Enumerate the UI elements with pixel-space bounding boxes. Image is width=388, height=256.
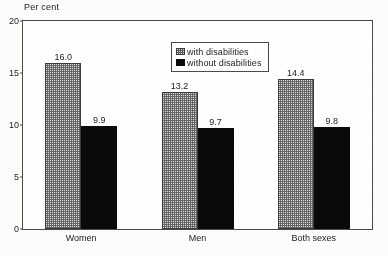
x-axis-category-label: Women [66,233,97,243]
y-axis-tick-mark [20,229,23,230]
legend-item-without-disabilities: without disabilities [176,57,262,68]
bar-value-label: 9.7 [209,117,222,127]
legend-swatch-without-disabilities [176,59,185,66]
bar: 13.2 [162,92,198,229]
bar: 9.7 [198,128,234,229]
y-axis-tick-label: 15 [9,68,19,78]
y-axis-tick-label: 0 [14,224,19,234]
bar: 16.0 [45,63,81,229]
y-axis-tick-mark [20,21,23,22]
x-axis-category-label: Men [189,233,207,243]
chart-legend: with disabilities without disabilities [171,42,269,72]
y-axis-unit-label: Per cent [24,2,59,12]
bar-chart-figure: Per cent 0510152016.09.913.29.714.49.8 w… [0,0,388,256]
legend-swatch-with-disabilities [176,48,185,55]
bar-group: 14.49.8 [278,21,350,229]
legend-label-with-disabilities: with disabilities [187,47,249,57]
bar-value-label: 14.4 [287,68,305,78]
bar-value-label: 13.2 [171,81,189,91]
bar-value-label: 9.9 [93,115,106,125]
y-axis-tick-label: 5 [14,172,19,182]
y-axis-tick-mark [20,125,23,126]
bar: 14.4 [278,79,314,229]
y-axis-tick-mark [20,177,23,178]
y-axis-tick-label: 10 [9,120,19,130]
plot-area: 0510152016.09.913.29.714.49.8 with disab… [22,20,373,230]
bar-group: 16.09.9 [45,21,117,229]
legend-label-without-disabilities: without disabilities [187,58,262,68]
bar-value-label: 9.8 [326,116,339,126]
legend-item-with-disabilities: with disabilities [176,46,262,57]
y-axis-tick-mark [20,73,23,74]
x-axis-category-label: Both sexes [292,233,337,243]
bar-value-label: 16.0 [54,52,72,62]
y-axis-tick-label: 20 [9,16,19,26]
bar: 9.9 [81,126,117,229]
bar: 9.8 [314,127,350,229]
